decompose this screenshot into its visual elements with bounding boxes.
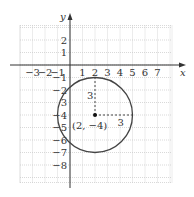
x-tick-label: 6 (142, 67, 148, 78)
y-axis-arrow-icon (68, 13, 73, 20)
axes: x y (10, 11, 186, 188)
x-tick-label: 7 (154, 67, 160, 78)
x-tick-label: 1 (79, 67, 85, 78)
coordinate-plane: x y −3−2−11234567 21−1−23−4−5−6−7−8 (2, … (0, 0, 194, 197)
x-tick-label: 4 (117, 67, 123, 78)
grid-lines (20, 26, 172, 183)
center-point (93, 113, 97, 117)
center-label: (2, −4) (72, 120, 107, 131)
y-axis-label: y (59, 11, 66, 22)
x-axis-label: x (180, 67, 186, 78)
y-tick-label: −4 (52, 110, 67, 121)
x-tick-label: 5 (129, 67, 135, 78)
x-tick-labels: −3−2−11234567 (25, 67, 161, 78)
y-tick-label: −1 (52, 72, 67, 83)
y-tick-label: −7 (52, 147, 67, 158)
x-tick-label: 3 (104, 67, 110, 78)
y-tick-label: −8 (52, 160, 67, 171)
x-tick-label: 2 (92, 67, 98, 78)
horizontal-radius-label: 3 (118, 117, 124, 128)
y-tick-label: 2 (61, 35, 67, 46)
vertical-radius-label: 3 (87, 90, 93, 101)
y-tick-label: 1 (61, 47, 67, 58)
